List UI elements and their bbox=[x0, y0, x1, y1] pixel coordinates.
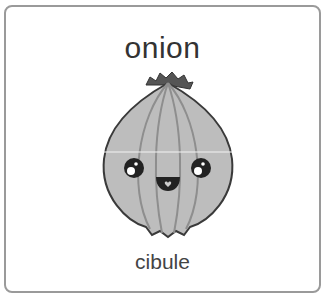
onion-icon bbox=[98, 67, 238, 239]
card-word: onion bbox=[6, 31, 319, 65]
flashcard: onion cibule bbox=[4, 5, 321, 293]
card-translation: cibule bbox=[6, 250, 319, 274]
